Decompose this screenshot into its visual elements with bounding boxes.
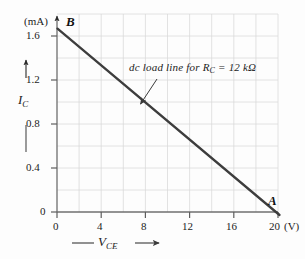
x-tick-label-16: 16 (226, 220, 237, 232)
load-line-annotation-suffix: = 12 kΩ (215, 61, 256, 73)
x-tick-label-8: 8 (141, 220, 147, 232)
x-tick-label-4: 4 (97, 220, 103, 232)
x-axis-unit-label: (V) (284, 220, 299, 232)
dc-load-line (58, 29, 280, 215)
x-tick-label-12: 12 (182, 220, 193, 232)
y-axis-name: IC (18, 92, 28, 109)
y-axis-unit-label: (mA) (24, 15, 48, 27)
point-label-a: A (268, 193, 277, 209)
point-label-b: B (66, 14, 75, 30)
y-tick-label-0-8: 0.8 (26, 117, 40, 129)
dc-load-line-figure: 0 0.4 0.8 1.2 1.6 0 4 8 12 16 20 (mA) (V… (0, 0, 305, 259)
x-tick-marks (57, 212, 278, 218)
y-tick-label-0-4: 0.4 (26, 161, 40, 173)
x-axis-name-subscript: CE (106, 241, 118, 251)
x-tick-label-0: 0 (53, 220, 59, 232)
y-tick-label-1-6: 1.6 (26, 29, 40, 41)
plot-canvas (0, 0, 305, 259)
annotation-leader-arrow (141, 79, 158, 104)
y-tick-marks (51, 36, 57, 212)
grid-vertical (79, 14, 278, 212)
x-tick-label-20: 20 (269, 220, 280, 232)
load-line-annotation: dc load line for RC = 12 kΩ (129, 61, 256, 75)
x-axis-name-main: V (98, 234, 106, 249)
y-tick-label-1-2: 1.2 (26, 73, 40, 85)
load-line-annotation-prefix: dc load line for R (129, 61, 210, 73)
y-axis-name-subscript: C (22, 99, 28, 109)
y-tick-label-0: 0 (40, 205, 46, 217)
x-axis-name: VCE (98, 234, 117, 251)
